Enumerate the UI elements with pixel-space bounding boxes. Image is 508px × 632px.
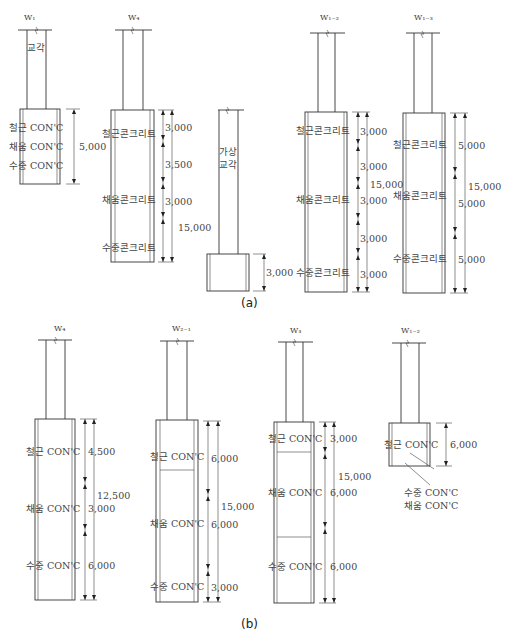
a-w12-dim-4: 3,000 (360, 233, 387, 244)
b-w21-dim-1: 6,000 (211, 453, 238, 464)
a-w12-dim-total: 15,000 (370, 179, 403, 190)
a-w12-dim-1: 3,000 (360, 126, 387, 137)
a-w1-layer-1: 철근 CON'C (9, 122, 63, 133)
b-w21-dim-total: 15,000 (221, 501, 254, 512)
b-w3-label: W₃ (290, 326, 301, 335)
a-w12-label: W₁₋₂ (320, 13, 339, 22)
a-w13-dim-1: 5,000 (458, 140, 485, 151)
b-w4-dim-total: 12,500 (97, 490, 130, 501)
b-w3-layer-2: 채움 CON'C (268, 487, 322, 498)
b-w21-layer-1: 철근 CON'C (150, 451, 204, 462)
b-w12-layer-1: 철근 CON'C (384, 439, 438, 450)
a-w13-layer-3: 수중콘크리트 (393, 253, 447, 264)
b-w4-layer-3: 수중 CON'C (26, 560, 80, 571)
b-w4-well: W₄ 철근 CON'C 채움 CON'C 수중 CON'C 4,500 12,5… (26, 324, 130, 600)
b-w12-leader-2: 채움 CON'C (404, 500, 458, 511)
a-w12-dim-3: 3,000 (360, 195, 387, 206)
a-w13-label: W₁₋₃ (414, 13, 433, 22)
b-w12-leader-1: 수중 CON'C (404, 487, 458, 498)
a-w12-layer-3: 수중콘크리트 (296, 267, 350, 278)
a-w4-dim-total: 15,000 (178, 222, 211, 233)
b-w21-dim-3: 3,000 (211, 582, 238, 593)
b-w21-layer-3: 수중 CON'C (150, 581, 204, 592)
b-w3-layer-3: 수중 CON'C (268, 561, 322, 572)
a-w12-layer-2: 채움콘크리트 (296, 194, 350, 205)
b-w4-dim-1: 4,500 (88, 446, 115, 457)
well-foundation-diagram: W₁ 교각 철근 CON'C 채움 CON'C 수중 CON'C 5,000 W… (0, 0, 508, 632)
a-w13-layer-2: 채움콘크리트 (393, 190, 447, 201)
a-w13-well: W₁₋₃ 철근콘크리트 채움콘크리트 수중콘크리트 5,000 15,000 5… (393, 13, 501, 293)
b-w3-dim-2: 6,000 (330, 487, 357, 498)
b-w21-well: W₂₋₁ 철근 CON'C 채움 CON'C 수중 CON'C 6,000 15… (150, 324, 254, 602)
a-temp-pier: 가상 교각 (207, 107, 266, 291)
a-w1-layer-2: 채움 CON'C (9, 141, 63, 152)
a-w4-layer-1: 철근콘크리트 (102, 128, 156, 139)
b-w3-dim-3: 6,000 (330, 561, 357, 572)
a-w4-dim-1: 3,000 (165, 122, 192, 133)
a-w1-shaft-text: 교각 (27, 42, 45, 53)
a-w12-dim-5: 3,000 (360, 269, 387, 280)
b-w21-label: W₂₋₁ (172, 324, 191, 333)
a-w4-label: W₄ (128, 13, 139, 22)
a-w4-well: W₄ 철근콘크리트 채움콘크리트 수중콘크리트 3,000 3,500 3,00… (102, 13, 211, 262)
b-w4-dim-3: 6,000 (88, 560, 115, 571)
b-w21-dim-2: 6,000 (211, 519, 238, 530)
a-w4-dim-2: 3,500 (165, 159, 192, 170)
a-w4-dim-3: 3,000 (165, 196, 192, 207)
b-w12-dim: 6,000 (450, 439, 477, 450)
b-w4-label: W₄ (54, 324, 65, 333)
a-temp-dim: 3,000 (266, 267, 293, 278)
a-w1-layer-3: 수중 CON'C (9, 160, 63, 171)
a-w13-layer-1: 철근콘크리트 (393, 139, 447, 150)
caption-a: (a) (241, 296, 258, 310)
a-w1-well: W₁ 교각 철근 CON'C 채움 CON'C 수중 CON'C 5,000 (9, 13, 106, 184)
b-w12-well: W₁₋₂ 철근 CON'C 6,000 수중 CON'C 채움 CON'C (384, 326, 477, 511)
a-w12-dim-2: 3,000 (360, 161, 387, 172)
b-w4-layer-2: 채움 CON'C (26, 503, 80, 514)
b-w12-label: W₁₋₂ (401, 326, 420, 335)
a-w12-well: W₁₋₂ 철근콘크리트 채움콘크리트 수중콘크리트 3,000 3,000 3,… (266, 13, 403, 292)
b-w4-layer-1: 철근 CON'C (26, 446, 80, 457)
b-w3-well: W₃ 철근 CON'C 채움 CON'C 수중 CON'C 3,000 15,0… (268, 326, 371, 603)
a-w13-dim-2: 5,000 (458, 198, 485, 209)
b-w21-layer-2: 채움 CON'C (150, 518, 204, 529)
a-w13-dim-total: 15,000 (468, 181, 501, 192)
a-w4-layer-3: 수중콘크리트 (102, 242, 156, 253)
a-w1-label: W₁ (24, 13, 35, 22)
b-w3-dim-1: 3,000 (330, 433, 357, 444)
b-w3-dim-total: 15,000 (338, 471, 371, 482)
a-w12-layer-1: 철근콘크리트 (296, 125, 350, 136)
a-temp-text-2: 교각 (219, 159, 237, 170)
a-w13-dim-3: 5,000 (458, 254, 485, 265)
a-w4-layer-2: 채움콘크리트 (102, 194, 156, 205)
caption-b: (b) (241, 617, 258, 631)
b-w4-dim-2: 3,000 (88, 503, 115, 514)
a-w1-dim-total: 5,000 (79, 141, 106, 152)
a-temp-text-1: 가상 (219, 146, 237, 157)
b-w3-layer-1: 철근 CON'C (268, 433, 322, 444)
